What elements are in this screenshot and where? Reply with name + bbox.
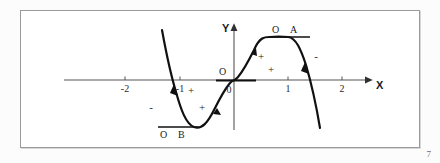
y-axis-label: Y: [222, 22, 230, 34]
origin-label: 0: [227, 84, 232, 95]
graph-plot: X Y -2 -1 1 2 0 O A O B O - + + + + -: [20, 10, 420, 148]
function-curve: [162, 30, 320, 128]
max-point-o-label: O: [272, 24, 279, 35]
sign-rise-right-low: +: [258, 50, 264, 62]
sign-right-branch: -: [314, 50, 318, 62]
x-tick-label-2: 2: [340, 83, 345, 94]
page-number: 7: [427, 149, 432, 159]
max-point-name-label: A: [290, 24, 298, 35]
sign-left-branch: -: [149, 101, 153, 113]
x-axis: [64, 77, 366, 81]
sign-rise-right-high: +: [268, 63, 274, 75]
min-point-o-label: O: [160, 129, 167, 140]
x-tick-label-minus1: -1: [176, 83, 184, 94]
min-point-name-label: B: [178, 129, 185, 140]
inflection-point-o-label: O: [219, 66, 226, 77]
x-tick-label-minus2: -2: [121, 83, 129, 94]
x-axis-label: X: [376, 79, 384, 91]
sign-rise-left-low: +: [188, 84, 194, 96]
sign-rise-left-high: +: [199, 101, 205, 113]
x-tick-label-1: 1: [286, 83, 291, 94]
figure-root: X Y -2 -1 1 2 0 O A O B O - + + + + - 7: [0, 0, 440, 163]
